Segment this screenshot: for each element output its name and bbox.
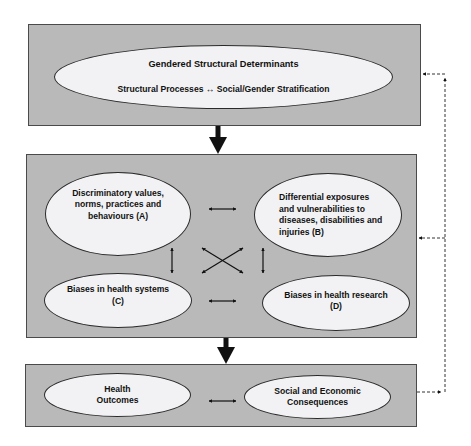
node-b-differential-exposures: Differential exposures and vulnerabiliti… bbox=[254, 173, 402, 257]
structural-determinants-title: Gendered Structural Determinants bbox=[148, 59, 298, 71]
health-outcomes-line-1: Health bbox=[104, 384, 130, 396]
social-economic-consequences-ellipse: Social and Economic Consequences bbox=[244, 375, 391, 419]
health-outcomes-line-2: Outcomes bbox=[96, 395, 138, 407]
node-b-line-1: Differential exposures bbox=[279, 192, 369, 204]
node-b-line-2: and vulnerabilities to bbox=[279, 204, 365, 216]
node-d-health-research-biases: Biases in health research (D) bbox=[262, 275, 410, 331]
consequences-line-1: Social and Economic bbox=[274, 386, 360, 398]
consequences-line-2: Consequences bbox=[287, 397, 348, 409]
node-b-line-3: diseases, disabilities and bbox=[279, 215, 382, 227]
node-a-discriminatory-values: Discriminatory values, norms, practices … bbox=[45, 172, 191, 256]
structural-determinants-subtitle: Structural Processes ↔ Social/Gender Str… bbox=[117, 84, 329, 96]
node-c-health-systems-biases: Biases in health systems (C) bbox=[44, 273, 192, 328]
node-a-line-3: behaviours (A) bbox=[88, 211, 148, 223]
node-c-line-2: (C) bbox=[112, 296, 124, 308]
structural-determinants-ellipse: Gendered Structural Determinants Structu… bbox=[54, 45, 393, 109]
down-arrow-middle-to-bottom bbox=[217, 338, 235, 364]
node-d-line-2: (D) bbox=[330, 301, 342, 313]
node-a-line-2: norms, practices and bbox=[75, 199, 161, 211]
node-c-line-1: Biases in health systems bbox=[67, 284, 169, 296]
node-b-line-4: injuries (B) bbox=[279, 227, 324, 239]
node-a-line-1: Discriminatory values, bbox=[72, 188, 164, 200]
health-outcomes-ellipse: Health Outcomes bbox=[44, 373, 191, 417]
feedback-loop bbox=[417, 74, 445, 392]
down-arrow-top-to-middle bbox=[209, 126, 227, 154]
node-d-line-1: Biases in health research bbox=[284, 290, 388, 302]
